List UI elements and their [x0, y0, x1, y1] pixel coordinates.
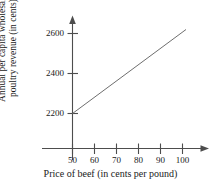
- y-axis-title: Annual per capita wholesale poultry reve…: [0, 0, 23, 116]
- y-axis-title-line1: Annual per capita wholesale: [0, 0, 8, 116]
- y-tick-label-2400: 2400: [38, 69, 64, 78]
- x-axis-arrowhead: [201, 145, 210, 152]
- chart-figure: 2600 2400 2200 50 60 70 80 90 100 Price …: [0, 0, 221, 189]
- data-line-poultry-revenue: [73, 30, 187, 114]
- x-tick-label-100: 100: [170, 156, 195, 165]
- y-axis-title-line2: poultry revenue (in cents): [8, 0, 19, 116]
- x-axis-title: Price of beef (in cents per pound): [0, 168, 221, 180]
- y-tick-label-2200: 2200: [38, 109, 64, 118]
- y-tick-label-2600: 2600: [38, 29, 64, 38]
- y-axis-arrowhead: [69, 16, 76, 25]
